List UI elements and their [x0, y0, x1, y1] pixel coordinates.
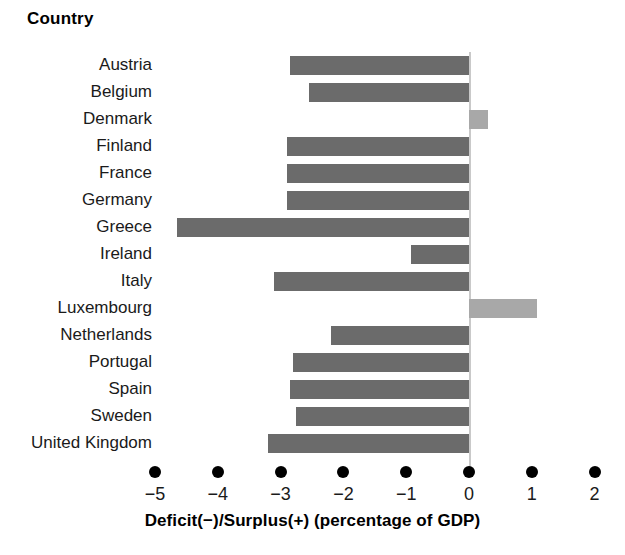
bar-netherlands	[331, 326, 469, 345]
bar-belgium	[309, 83, 469, 102]
tick-label: 0	[449, 484, 489, 505]
category-label-germany: Germany	[0, 189, 152, 211]
bar-greece	[177, 218, 469, 237]
category-label-greece: Greece	[0, 216, 152, 238]
tick-dot-icon	[149, 466, 161, 478]
chart-row: Ireland	[0, 241, 625, 268]
tick-label: 2	[575, 484, 615, 505]
category-label-finland: Finland	[0, 135, 152, 157]
tick-dot-icon	[589, 466, 601, 478]
tick-label: −4	[198, 484, 238, 505]
category-label-portugal: Portugal	[0, 351, 152, 373]
bar-austria	[290, 56, 469, 75]
tick-label: 1	[512, 484, 552, 505]
chart-row: Portugal	[0, 349, 625, 376]
bar-france	[287, 164, 469, 183]
chart-row: Spain	[0, 376, 625, 403]
bar-italy	[274, 272, 469, 291]
x-axis-tick-labels: −5−4−3−2−1012	[0, 484, 625, 508]
bar-spain	[290, 380, 469, 399]
bar-sweden	[296, 407, 469, 426]
bar-united-kingdom	[268, 434, 469, 453]
tick-label: −3	[261, 484, 301, 505]
tick-dot-icon	[275, 466, 287, 478]
chart-row: Germany	[0, 187, 625, 214]
bar-germany	[287, 191, 469, 210]
plot-area: AustriaBelgiumDenmarkFinlandFranceGerman…	[0, 52, 625, 462]
category-label-ireland: Ireland	[0, 243, 152, 265]
chart-row: France	[0, 160, 625, 187]
tick-dot-icon	[463, 466, 475, 478]
chart-row: Sweden	[0, 403, 625, 430]
chart-row: Luxembourg	[0, 295, 625, 322]
bar-denmark	[469, 110, 488, 129]
bar-finland	[287, 137, 469, 156]
category-label-austria: Austria	[0, 54, 152, 76]
category-label-denmark: Denmark	[0, 108, 152, 130]
bar-luxembourg	[469, 299, 537, 318]
chart-row: Belgium	[0, 79, 625, 106]
page-title: Country	[27, 9, 94, 29]
tick-dot-icon	[337, 466, 349, 478]
category-label-united-kingdom: United Kingdom	[0, 432, 152, 454]
category-label-netherlands: Netherlands	[0, 324, 152, 346]
tick-dot-icon	[400, 466, 412, 478]
category-label-spain: Spain	[0, 378, 152, 400]
x-axis-title: Deficit(−)/Surplus(+) (percentage of GDP…	[0, 511, 625, 531]
category-label-italy: Italy	[0, 270, 152, 292]
category-label-luxembourg: Luxembourg	[0, 297, 152, 319]
tick-label: −2	[323, 484, 363, 505]
tick-dot-icon	[526, 466, 538, 478]
x-axis-tick-marks	[0, 466, 625, 484]
chart-row: Greece	[0, 214, 625, 241]
chart-page: Country AustriaBelgiumDenmarkFinlandFran…	[0, 0, 625, 555]
tick-label: −5	[135, 484, 175, 505]
chart-row: Finland	[0, 133, 625, 160]
chart-row: Netherlands	[0, 322, 625, 349]
category-label-france: France	[0, 162, 152, 184]
chart-row: Italy	[0, 268, 625, 295]
bar-ireland	[411, 245, 469, 264]
chart-row: Austria	[0, 52, 625, 79]
category-label-belgium: Belgium	[0, 81, 152, 103]
tick-label: −1	[386, 484, 426, 505]
chart-row: United Kingdom	[0, 430, 625, 457]
chart-row: Denmark	[0, 106, 625, 133]
category-label-sweden: Sweden	[0, 405, 152, 427]
bar-portugal	[293, 353, 469, 372]
tick-dot-icon	[212, 466, 224, 478]
